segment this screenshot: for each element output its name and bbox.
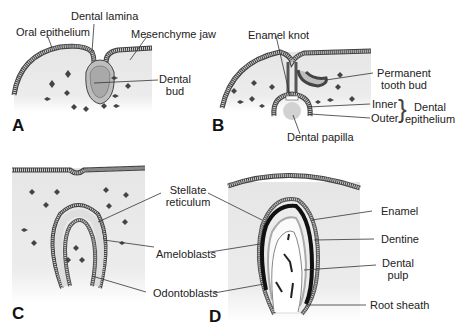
label-odontoblasts: Odontoblasts xyxy=(153,287,218,299)
label-permanent-tooth-bud-line1: Permanent xyxy=(374,67,434,79)
panel-b-illustration xyxy=(222,36,373,134)
label-stellate-reticulum-line1: Stellate xyxy=(160,184,216,196)
panel-letter-a: A xyxy=(12,116,24,136)
label-enamel-knot: Enamel knot xyxy=(248,29,309,41)
label-dental-bud: Dental bud xyxy=(158,73,192,97)
panel-letter-c: C xyxy=(12,304,24,324)
label-dental-pulp: Dental pulp xyxy=(381,257,415,281)
panel-letter-b: B xyxy=(212,116,224,136)
panel-c-illustration xyxy=(12,168,161,304)
label-mesenchyme-jaw: Mesenchyme jaw xyxy=(131,28,216,40)
label-outer: Outer xyxy=(371,112,399,124)
label-dental-epithelium-line2: epithelium xyxy=(400,113,459,125)
enamel-knot-shape xyxy=(286,96,298,100)
label-root-sheath: Root sheath xyxy=(370,299,429,311)
label-dental-bud-line1: Dental xyxy=(158,73,192,85)
label-inner: Inner xyxy=(372,98,397,110)
panel-letter-d: D xyxy=(209,307,221,327)
label-enamel: Enamel xyxy=(381,205,418,217)
tooth-development-diagram xyxy=(0,0,459,334)
label-dental-papilla: Dental papilla xyxy=(287,131,354,143)
label-oral-epithelium: Oral epithelium xyxy=(16,26,90,38)
label-dentine: Dentine xyxy=(381,233,419,245)
label-dental-epithelium-line1: Dental xyxy=(400,101,459,113)
label-dental-pulp-line2: pulp xyxy=(381,269,415,281)
label-stellate-reticulum-line2: reticulum xyxy=(160,196,216,208)
panel-d-illustration xyxy=(208,175,376,322)
dental-papilla-shape xyxy=(283,102,301,120)
label-dental-pulp-line1: Dental xyxy=(381,257,415,269)
label-ameloblasts: Ameloblasts xyxy=(156,248,216,260)
label-permanent-tooth-bud-line2: tooth bud xyxy=(374,79,434,91)
label-dental-epithelium: Dental epithelium xyxy=(400,101,459,125)
label-stellate-reticulum: Stellate reticulum xyxy=(160,184,216,208)
label-dental-lamina: Dental lamina xyxy=(71,10,138,22)
dental-pulp-shape xyxy=(272,231,302,312)
label-dental-bud-line2: bud xyxy=(158,85,192,97)
label-permanent-tooth-bud: Permanent tooth bud xyxy=(374,67,434,91)
